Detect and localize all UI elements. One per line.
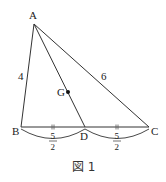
median-AD [34, 24, 85, 127]
centroid-point-G [66, 90, 70, 94]
label-C: C [151, 125, 158, 137]
label-A: A [29, 9, 37, 21]
label-G: G [57, 86, 65, 98]
fraction-DC-numerator: 5 [115, 131, 120, 141]
fraction-BD-denominator: 2 [51, 142, 56, 152]
side-AC [34, 24, 149, 127]
length-AB: 4 [18, 70, 24, 82]
label-B: B [12, 125, 19, 137]
triangle-diagram: A B C D G 4 6 5 2 5 2 図 1 [0, 0, 166, 182]
figure-caption: 図 1 [72, 160, 95, 174]
label-D: D [80, 130, 88, 142]
fraction-DC: 5 2 [113, 131, 121, 152]
fraction-BD-numerator: 5 [51, 131, 56, 141]
fraction-BD: 5 2 [49, 131, 57, 152]
fraction-DC-denominator: 2 [115, 142, 120, 152]
length-AC: 6 [101, 70, 107, 82]
